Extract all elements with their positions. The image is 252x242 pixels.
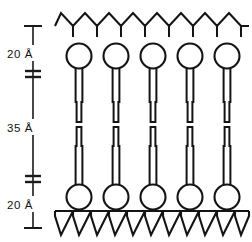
lipid-tail-upper <box>150 63 157 122</box>
lipid-tail-lower <box>187 127 194 190</box>
lower-leaflet-lipids <box>67 127 240 210</box>
lipid-head-upper <box>215 44 240 69</box>
lipid-tail-upper <box>187 63 194 122</box>
upper-zigzag-path <box>55 13 249 26</box>
lipid-head-upper <box>141 44 166 69</box>
measurement-scale: 20 Å 35 Å 20 Å <box>4 26 44 228</box>
lower-zigzag-chain <box>55 211 249 235</box>
lipid-head-upper <box>178 44 203 69</box>
lipid-molecule-upper <box>178 44 203 123</box>
lipid-tail-upper <box>113 63 120 122</box>
measurement-label-hydrophobic-core: 35 Å <box>7 122 33 134</box>
lipid-head-lower <box>141 185 166 210</box>
measurement-label-lower-leaflet: 20 Å <box>7 199 33 211</box>
lipid-molecule-upper <box>104 44 129 123</box>
upper-zigzag-chain <box>55 13 249 37</box>
measurement-label-upper-leaflet: 20 Å <box>7 48 33 60</box>
lipid-head-lower <box>104 185 129 210</box>
membrane-diagram-canvas: 20 Å 35 Å 20 Å <box>0 0 252 242</box>
lipid-tail-lower <box>113 127 120 190</box>
lipid-tail-upper <box>224 63 231 122</box>
lipid-head-upper <box>67 44 92 69</box>
lipid-head-lower <box>215 185 240 210</box>
lipid-tail-lower <box>150 127 157 190</box>
lipid-molecule-upper <box>141 44 166 123</box>
lipid-molecule-lower <box>178 127 203 210</box>
lipid-tail-upper <box>76 63 83 122</box>
lipid-tail-lower <box>224 127 231 190</box>
lipid-head-lower <box>67 185 92 210</box>
lipid-molecule-lower <box>215 127 240 210</box>
upper-leaflet-lipids <box>67 44 240 123</box>
lipid-molecule-upper <box>67 44 92 123</box>
lipid-head-lower <box>178 185 203 210</box>
lipid-molecule-lower <box>141 127 166 210</box>
lower-zigzag-path <box>55 211 249 235</box>
lipid-molecule-lower <box>67 127 92 210</box>
lipid-tail-lower <box>76 127 83 190</box>
lipid-bilayer-figure: 20 Å 35 Å 20 Å <box>0 0 252 242</box>
lipid-molecule-upper <box>215 44 240 123</box>
lipid-molecule-lower <box>104 127 129 210</box>
lipid-head-upper <box>104 44 129 69</box>
